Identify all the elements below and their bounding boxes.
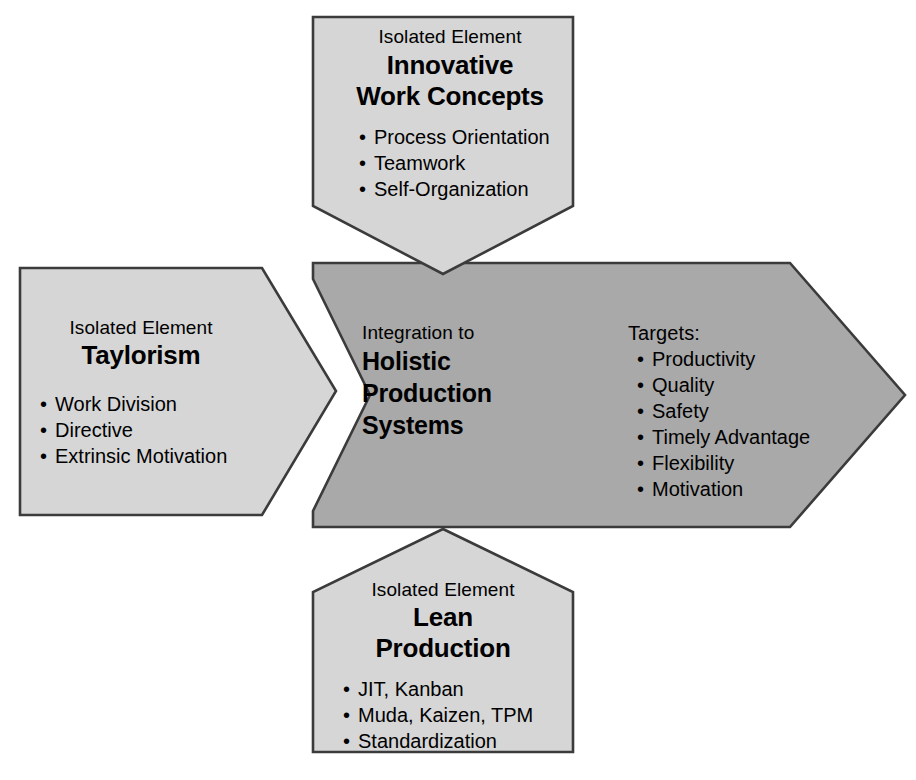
list-item: JIT, Kanban	[343, 676, 573, 702]
list-item: Work Division	[40, 391, 262, 417]
targets-bullet-list: Productivity Quality Safety Timely Advan…	[637, 346, 878, 502]
top-eyebrow: Isolated Element	[327, 24, 573, 49]
top-heading-line2: Work Concepts	[327, 81, 573, 112]
list-item: Extrinsic Motivation	[40, 443, 262, 469]
list-item: Teamwork	[359, 150, 573, 176]
top-bullet-list: Process Orientation Teamwork Self-Organi…	[359, 124, 573, 202]
center-heading-line3: Systems	[362, 409, 582, 441]
bottom-heading-line2: Production	[313, 633, 573, 664]
list-item: Productivity	[637, 346, 878, 372]
left-eyebrow: Isolated Element	[20, 315, 262, 340]
top-heading-line1: Innovative	[327, 50, 573, 81]
taylorism-text: Isolated Element Taylorism Work Division…	[20, 315, 262, 469]
lean-production-text: Isolated Element Lean Production JIT, Ka…	[313, 577, 573, 754]
holistic-production-systems-text: Integration to Holistic Production Syste…	[362, 320, 582, 441]
targets-label: Targets:	[628, 320, 878, 346]
left-heading-line1: Taylorism	[20, 340, 262, 371]
bottom-eyebrow: Isolated Element	[313, 577, 573, 602]
list-item: Process Orientation	[359, 124, 573, 150]
list-item: Self-Organization	[359, 176, 573, 202]
list-item: Quality	[637, 372, 878, 398]
list-item: Standardization	[343, 728, 573, 754]
center-eyebrow: Integration to	[362, 320, 582, 345]
diagram-canvas: Isolated Element Innovative Work Concept…	[0, 0, 916, 780]
list-item: Safety	[637, 398, 878, 424]
center-heading-line2: Production	[362, 377, 582, 409]
left-bullet-list: Work Division Directive Extrinsic Motiva…	[40, 391, 262, 469]
list-item: Timely Advantage	[637, 424, 878, 450]
bottom-bullet-list: JIT, Kanban Muda, Kaizen, TPM Standardiz…	[343, 676, 573, 754]
list-item: Directive	[40, 417, 262, 443]
targets-text: Targets: Productivity Quality Safety Tim…	[628, 320, 878, 502]
innovative-work-concepts-text: Isolated Element Innovative Work Concept…	[327, 24, 573, 202]
bottom-heading-line1: Lean	[313, 602, 573, 633]
list-item: Flexibility	[637, 450, 878, 476]
center-heading-line1: Holistic	[362, 345, 582, 377]
list-item: Motivation	[637, 476, 878, 502]
list-item: Muda, Kaizen, TPM	[343, 702, 573, 728]
